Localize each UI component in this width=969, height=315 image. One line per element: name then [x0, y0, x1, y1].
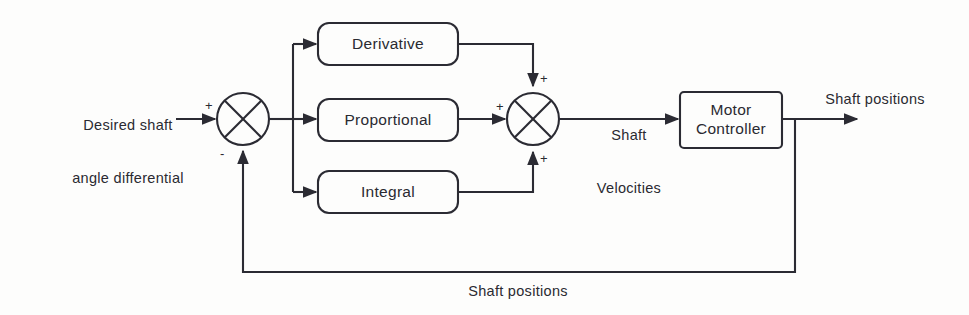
label-shaft-positions-output: Shaft positions: [800, 91, 950, 109]
wire-derivative-to-sum: [458, 44, 533, 86]
block-derivative-shape: [318, 23, 458, 65]
control-block-diagram: Desired shaft angle differential + - Der…: [0, 0, 969, 315]
label-desired-shaft-angle: Desired shaft angle differential: [48, 82, 208, 224]
block-integral-shape: [318, 171, 458, 213]
label-shaft-velocities-line1: Shaft: [581, 127, 677, 145]
block-motor-controller-shape: [680, 92, 782, 148]
sign-feedback-minus: -: [220, 147, 224, 160]
sign-proportional-plus: +: [496, 100, 504, 113]
label-shaft-velocities: Shaft Velocities: [581, 92, 677, 234]
block-proportional-shape: [318, 99, 458, 141]
label-desired-shaft-angle-line2: angle differential: [48, 170, 208, 188]
label-shaft-positions-feedback: Shaft positions: [368, 283, 668, 301]
label-shaft-velocities-line2: Velocities: [581, 180, 677, 198]
wire-integral-to-sum: [458, 152, 533, 192]
sign-derivative-plus: +: [540, 72, 548, 85]
sign-integral-plus: +: [540, 152, 548, 165]
label-desired-shaft-angle-line1: Desired shaft: [48, 117, 208, 135]
sign-input-plus: +: [205, 99, 213, 112]
